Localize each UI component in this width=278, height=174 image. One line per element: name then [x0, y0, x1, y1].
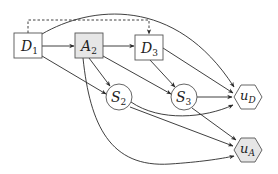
- edges: [28, 14, 236, 164]
- edge-D1-S2: [42, 56, 106, 94]
- influence-diagram: D1 A2 D3 S2 S3 uD uA: [0, 0, 278, 174]
- node-S2: S2: [106, 84, 132, 110]
- node-A2: A2: [75, 33, 103, 58]
- node-D1: D1: [14, 33, 42, 58]
- node-S3: S3: [171, 84, 197, 110]
- node-uA: uA: [234, 138, 262, 162]
- edge-A2-S2: [89, 58, 110, 86]
- node-D3: D3: [135, 35, 163, 60]
- edge-A2-uA: [83, 58, 234, 164]
- node-uD: uD: [234, 85, 262, 109]
- edge-D3-S3: [150, 60, 175, 87]
- edge-S3-uA: [192, 108, 236, 140]
